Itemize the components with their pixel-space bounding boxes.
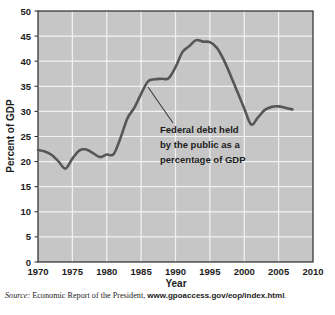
- x-tick-label: 1970: [27, 266, 48, 277]
- x-tick-label: 2000: [234, 266, 255, 277]
- x-tick-label: 1985: [131, 266, 153, 277]
- y-tick-label: 25: [20, 131, 31, 142]
- annotation-line-3: percentage of GDP: [160, 154, 246, 165]
- source-note: Source: Economic Report of the President…: [5, 291, 305, 302]
- x-tick-label: 1975: [62, 266, 84, 277]
- y-axis-tick-labels: 05101520253035404550: [20, 6, 31, 268]
- y-tick-label: 30: [20, 106, 31, 117]
- annotation-line-2: by the public as a: [160, 139, 240, 150]
- x-tick-label: 2005: [268, 266, 290, 277]
- x-axis-tick-labels: 197019751980198519901995200020052010: [27, 266, 323, 277]
- y-tick-label: 5: [26, 231, 32, 242]
- figure-container: 05101520253035404550 1970197519801985199…: [0, 0, 335, 315]
- source-period: .: [284, 291, 286, 300]
- x-tick-label: 1980: [96, 266, 117, 277]
- y-tick-label: 50: [20, 6, 31, 17]
- y-tick-label: 35: [20, 81, 31, 92]
- x-tick-label: 1995: [199, 266, 221, 277]
- y-tick-label: 15: [20, 181, 31, 192]
- source-label: Source:: [5, 291, 30, 300]
- x-tick-label: 2010: [302, 266, 323, 277]
- annotation-line-1: Federal debt held: [160, 124, 239, 135]
- y-tick-label: 20: [20, 156, 31, 167]
- x-axis-title: Year: [165, 278, 186, 289]
- x-tick-label: 1990: [165, 266, 186, 277]
- source-url[interactable]: www.gpoaccess.gov/eop/index.html: [147, 291, 284, 300]
- y-tick-label: 40: [20, 56, 31, 67]
- y-tick-label: 10: [20, 206, 31, 217]
- y-tick-label: 45: [20, 31, 31, 42]
- y-axis-title: Percent of GDP: [5, 99, 16, 173]
- source-text: Economic Report of the President,: [30, 291, 147, 300]
- line-chart: 05101520253035404550 1970197519801985199…: [0, 0, 335, 315]
